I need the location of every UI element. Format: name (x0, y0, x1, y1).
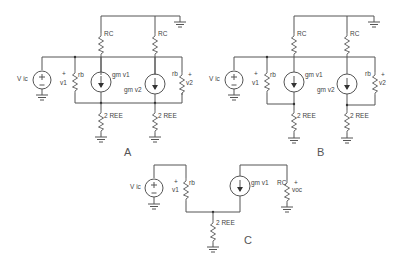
label-rb-b2: rb (365, 70, 371, 77)
label-source-b: V ic (209, 75, 221, 82)
label-rc-b2: RC (350, 30, 360, 37)
label-source-c: V ic (130, 183, 142, 190)
label-v1-b: v1 (252, 79, 259, 86)
label-rc-c: RC (277, 179, 287, 186)
label-rc-a1: RC (104, 30, 114, 37)
label-rb-c: rb (189, 179, 195, 186)
label-source-a: V ic (17, 75, 29, 82)
label-plus-v1-c: + (174, 178, 178, 185)
label-v1-a: v1 (60, 79, 67, 86)
label-voc: voc (292, 186, 303, 193)
label-plus-v1-b: + (254, 70, 258, 77)
label-ree-c: 2 REE (216, 219, 235, 226)
label-gmv2-a: gm v2 (124, 86, 142, 94)
label-plus-v2-b: + (381, 71, 385, 78)
label-gmv1-a: gm v1 (112, 71, 130, 79)
label-gmv1-b: gm v1 (305, 71, 323, 79)
label-ree-a2: 2 REE (158, 112, 177, 119)
caption-c: C (244, 234, 252, 246)
label-ree-a1: 2 REE (104, 112, 123, 119)
caption-a: A (124, 146, 132, 158)
label-rc-a2: RC (158, 30, 168, 37)
label-v2-b: v2 (379, 79, 386, 86)
circuit-c: V ic + v1 rb gm v1 RC + voc 2 REE C (130, 165, 303, 252)
circuit-a: RC RC V ic + v1 rb gm v1 gm v2 rb + v2 2… (17, 16, 193, 158)
label-rb-b1: rb (270, 71, 276, 78)
label-v1-c: v1 (172, 186, 179, 193)
label-rb-a2: rb (172, 70, 178, 77)
label-rb-a1: rb (78, 71, 84, 78)
label-plus-voc: + (294, 179, 298, 186)
circuit-b: RC RC V ic + v1 rb gm v1 gm v2 rb + v2 2… (209, 16, 386, 158)
label-rc-b1: RC (297, 30, 307, 37)
label-v2-a: v2 (186, 79, 193, 86)
label-ree-b1: 2 REE (297, 112, 316, 119)
label-plus-v2-a: + (188, 71, 192, 78)
caption-b: B (317, 146, 324, 158)
label-ree-b2: 2 REE (350, 112, 369, 119)
label-gmv1-c: gm v1 (251, 179, 269, 187)
label-plus-v1-a: + (62, 70, 66, 77)
label-gmv2-b: gm v2 (317, 86, 335, 94)
